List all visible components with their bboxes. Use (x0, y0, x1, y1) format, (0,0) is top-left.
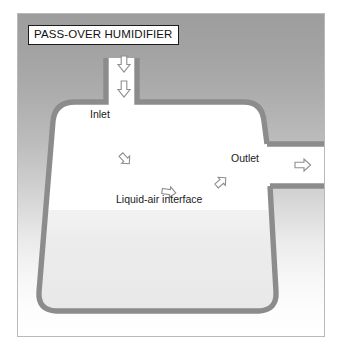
label-liquid-air-interface: Liquid-air interface (116, 193, 202, 205)
figure-title-box: PASS-OVER HUMIDIFIER (28, 25, 179, 45)
liquid-body (18, 210, 324, 336)
label-outlet: Outlet (231, 152, 259, 164)
label-inlet: Inlet (90, 108, 110, 120)
humidifier-vessel-drawing (18, 14, 324, 336)
diagram-frame: PASS-OVER HUMIDIFIER Inlet Outlet Liquid… (17, 13, 325, 337)
figure-title-text: PASS-OVER HUMIDIFIER (34, 28, 173, 40)
figure-root: PASS-OVER HUMIDIFIER Inlet Outlet Liquid… (0, 0, 344, 355)
